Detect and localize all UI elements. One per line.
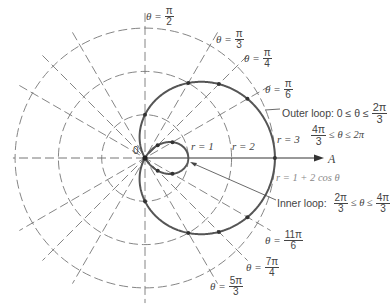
curve-point bbox=[143, 199, 147, 203]
label-theta-5pi-3: θ = 5π3 bbox=[210, 276, 243, 297]
label-r2: r = 2 bbox=[232, 141, 255, 152]
inner-loop-arrow-icon bbox=[190, 162, 197, 167]
label-theta-7pi-4: θ = 7π4 bbox=[246, 257, 279, 278]
arrow-head-icon bbox=[314, 155, 324, 162]
inner-loop-leader bbox=[192, 163, 276, 200]
frac: π6 bbox=[284, 79, 293, 100]
label-origin: 0 bbox=[133, 146, 139, 156]
frac: 2π3 bbox=[334, 193, 348, 214]
curve-point bbox=[217, 230, 221, 234]
curve-point bbox=[143, 113, 147, 117]
curve-point bbox=[245, 215, 249, 219]
frac: π2 bbox=[165, 6, 174, 27]
frac: π4 bbox=[263, 48, 272, 69]
inner-loop-annotation: Inner loop: 2π3 ≤ θ ≤ 4π3 bbox=[277, 193, 390, 214]
label-r3: r = 3 bbox=[277, 134, 300, 145]
curve-point bbox=[245, 97, 249, 101]
curve-point bbox=[273, 156, 277, 160]
label-theta-pi-3: θ = π3 bbox=[216, 29, 244, 50]
frac: 7π4 bbox=[265, 257, 279, 278]
frac: π3 bbox=[235, 29, 244, 50]
curve-point bbox=[186, 81, 190, 85]
label-equation: r = 1 + 2 cos θ bbox=[276, 173, 340, 184]
frac: 4π3 bbox=[376, 193, 390, 214]
curve-point bbox=[156, 169, 160, 173]
label-theta-pi-4: θ = π4 bbox=[244, 48, 272, 69]
curve-point bbox=[156, 143, 160, 147]
outer-loop-annotation: Outer loop: 0 ≤ θ ≤ 2π3 bbox=[282, 102, 387, 125]
curve-point bbox=[186, 231, 190, 235]
curve-point bbox=[170, 140, 174, 144]
label-r1: r = 1 bbox=[191, 141, 214, 152]
curve-point bbox=[170, 172, 174, 176]
label-theta-pi-2: θ = π2 bbox=[146, 6, 174, 27]
frac: 2π3 bbox=[372, 102, 388, 125]
outer-loop-annotation-range2: 4π3 ≤ θ ≤ 2π bbox=[311, 124, 364, 146]
label-polar-axis: A bbox=[328, 153, 335, 165]
outer-loop-leader bbox=[265, 109, 280, 110]
origin-point bbox=[142, 155, 147, 160]
label-theta-11pi-6: θ = 11π6 bbox=[265, 230, 303, 251]
frac: 5π3 bbox=[229, 276, 243, 297]
label-theta-pi-6: θ = π6 bbox=[265, 79, 293, 100]
curve-point bbox=[217, 82, 221, 86]
frac: 11π6 bbox=[284, 230, 303, 251]
frac: 4π3 bbox=[311, 124, 326, 146]
